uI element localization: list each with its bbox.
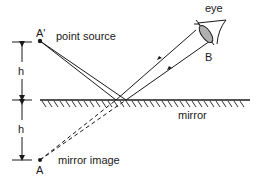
virtual-rays: [40, 100, 126, 160]
height-upper-label: h: [18, 65, 24, 77]
image-point: [38, 158, 42, 162]
eye-point-label: B: [205, 51, 212, 63]
height-lower-label: h: [18, 123, 24, 135]
mirror-surface: [40, 100, 250, 107]
source-point-label: A': [36, 27, 45, 39]
incident-rays: [40, 41, 126, 100]
image-text-label: mirror image: [58, 154, 120, 166]
mirror-label: mirror: [178, 109, 207, 121]
eye-icon: [194, 20, 226, 45]
height-dimension: [12, 42, 32, 160]
mirror-reflection-diagram: eye A' point source B mirror A mirror im…: [0, 0, 256, 186]
reflected-rays: [116, 30, 210, 100]
source-text-label: point source: [56, 30, 116, 42]
image-point-label: A: [36, 164, 44, 176]
source-point: [38, 39, 42, 43]
eye-label: eye: [205, 2, 223, 14]
